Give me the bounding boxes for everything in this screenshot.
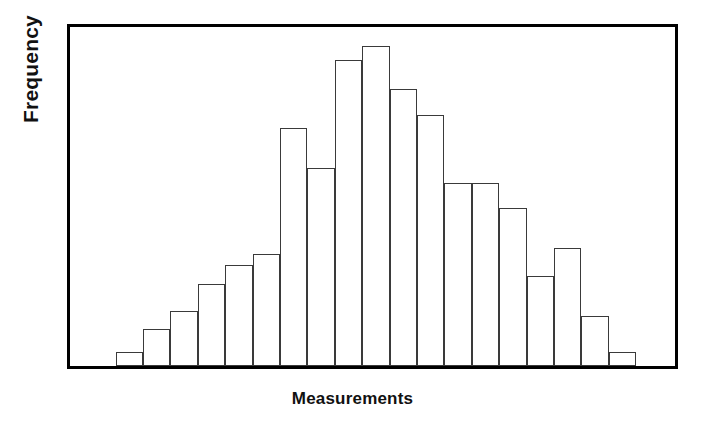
histogram-bar [390,89,417,366]
histogram-bar [527,276,554,366]
histogram-bar [143,329,170,366]
histogram-bar [116,352,143,366]
histogram-bar [280,128,307,366]
histogram-bar [225,265,252,366]
histogram-bar [472,183,499,366]
histogram-bar [581,316,608,366]
histogram-figure: Frequency Measurements [0,0,705,436]
histogram-bar [444,183,471,366]
histogram-bar [417,115,444,366]
y-axis-label: Frequency [14,0,48,154]
histogram-bar [170,311,197,366]
histogram-bar [253,254,280,366]
histogram-bar [554,248,581,366]
histogram-bar [335,60,362,366]
histogram-bar [499,208,526,366]
histogram-bar [609,352,636,366]
histogram-bar [362,46,389,366]
plot-area [70,27,675,366]
x-axis-label: Measurements [0,389,705,409]
histogram-bar [307,168,334,366]
plot-frame [67,24,678,369]
histogram-bar [198,284,225,366]
